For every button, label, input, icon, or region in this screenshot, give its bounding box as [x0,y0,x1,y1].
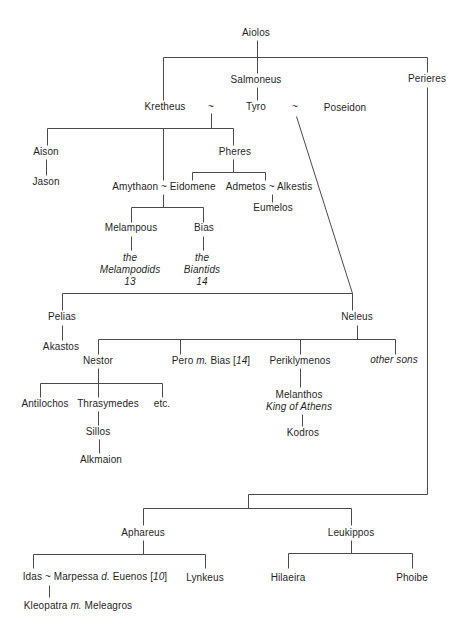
node-label-line: other sons [370,354,418,366]
node-leukippos: Leukippos [328,527,375,539]
label-part: Nestor [83,355,113,366]
node-label-line: Periklymenos [269,355,330,367]
node-tilde-kretheus-tyro: ~ [208,101,214,113]
node-label-line: Nestor [83,355,113,367]
label-part: Pelias [48,311,76,322]
node-thrasymedes: Thrasymedes [77,398,139,410]
label-part: Admetos ~ Alkestis [226,181,313,192]
label-part: ~ [292,101,298,112]
label-part: Kleopatra [24,600,71,611]
node-hilaeira: Hilaeira [271,572,306,584]
label-part: Kretheus [145,101,186,112]
label-part: Tyro [246,101,266,112]
node-label-line: Leukippos [328,527,375,539]
node-pero-bias: Pero m. Bias [14] [172,355,250,367]
label-part: Melampous [105,222,158,233]
label-part: Bias [ [208,355,237,366]
label-part: Salmoneus [231,74,282,85]
label-part: Aison [33,146,59,157]
node-alkmaion: Alkmaion [80,454,122,466]
label-part: 14 [236,355,247,366]
node-label-line: Admetos ~ Alkestis [226,181,313,193]
node-label-line: Phoibe [396,572,428,584]
node-label-line: Idas ~ Marpessa d. Euenos [10] [23,571,168,583]
label-part: 14 [196,276,207,287]
node-phoibe: Phoibe [396,572,428,584]
node-biantids: theBiantids14 [184,252,220,288]
node-nestor: Nestor [83,355,113,367]
label-part: m. [70,600,81,611]
label-part: Meleagros [82,600,132,611]
node-label-line: Hilaeira [271,572,306,584]
node-periklymenos: Periklymenos [269,355,330,367]
label-part: Biantids [184,264,220,275]
node-label-line: Melampodids [100,264,161,276]
label-part: Lynkeus [186,572,224,583]
label-part: the [123,252,137,263]
node-kodros: Kodros [287,427,319,439]
node-aphareus: Aphareus [121,527,165,539]
label-part: Akastos [43,341,79,352]
node-label-line: Aison [33,146,59,158]
label-part: Bias [194,222,214,233]
node-label-line: 13 [100,276,161,288]
label-part: Sillos [86,426,111,437]
node-label-line: Kretheus [145,101,186,113]
node-label-line: Biantids [184,264,220,276]
node-tilde-tyro-poseidon: ~ [292,101,298,113]
node-pheres: Pheres [219,146,251,158]
label-part: Melampodids [100,264,161,275]
node-label-line: Jason [32,176,59,188]
label-part: Amythaon ~ Eidomene [112,181,215,192]
node-sillos: Sillos [86,426,111,438]
label-part: d. [101,571,110,582]
label-part: Antilochos [21,398,68,409]
label-part: King of Athens [266,401,332,412]
node-perieres: Perieres [408,73,446,85]
node-label-line: Tyro [246,101,266,113]
node-label-line: etc. [154,398,171,410]
node-bias: Bias [194,222,214,234]
node-label-line: Amythaon ~ Eidomene [112,181,215,193]
label-part: the [195,252,209,263]
node-label-line: the [100,252,161,264]
node-label-line: Sillos [86,426,111,438]
label-part: Pheres [219,146,251,157]
node-label-line: 14 [184,276,220,288]
node-label-line: Antilochos [21,398,68,410]
node-label-line: Kleopatra m. Meleagros [24,600,132,612]
label-part: etc. [154,398,171,409]
node-melanthos: MelanthosKing of Athens [266,389,332,413]
node-kleopatra-meleagros: Kleopatra m. Meleagros [24,600,132,612]
node-eumelos: Eumelos [253,202,293,214]
label-part: Kodros [287,427,319,438]
label-part: Jason [32,176,59,187]
label-part: Pero [172,355,196,366]
label-part: ] [164,571,167,582]
node-label-line: Pero m. Bias [14] [172,355,250,367]
node-label-line: ~ [292,101,298,113]
node-tyro: Tyro [246,101,266,113]
node-etc: etc. [154,398,171,410]
label-part: Aphareus [121,527,165,538]
node-antilochos: Antilochos [21,398,68,410]
label-part: Eumelos [253,202,293,213]
node-amythaon-eidomene: Amythaon ~ Eidomene [112,181,215,193]
tree-line [297,117,353,294]
node-label-line: ~ [208,101,214,113]
node-label-line: Poseidon [324,102,367,114]
label-part: Neleus [341,311,373,322]
node-label-line: Bias [194,222,214,234]
label-part: Poseidon [324,102,367,113]
label-part: Phoibe [396,572,428,583]
label-part: Hilaeira [271,572,306,583]
label-part: Euenos [ [110,571,153,582]
node-label-line: Aphareus [121,527,165,539]
node-aiolos: Aiolos [242,27,270,39]
node-label-line: Thrasymedes [77,398,139,410]
node-other-sons: other sons [370,354,418,366]
node-idas-marpessa: Idas ~ Marpessa d. Euenos [10] [23,571,168,583]
node-label-line: Salmoneus [231,74,282,86]
node-admetos-alkestis: Admetos ~ Alkestis [226,181,313,193]
label-part: 10 [153,571,164,582]
